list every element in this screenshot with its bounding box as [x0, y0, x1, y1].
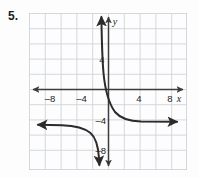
y-tick-label-minus4: –4	[95, 115, 106, 126]
x-axis-name: x	[176, 93, 182, 104]
y-axis-name: y	[112, 16, 118, 27]
x-tick-label-minus8: –8	[45, 93, 56, 104]
figure-container: 5.	[0, 0, 198, 178]
graph-svg: –8 –4 4 8 4 –4 –8 x y	[29, 13, 187, 170]
problem-number-label: 5.	[8, 10, 18, 22]
x-tick-label-8: 8	[167, 93, 172, 104]
x-tick-label-minus4: –4	[76, 93, 87, 104]
x-tick-label-4: 4	[136, 93, 141, 104]
coordinate-plot: –8 –4 4 8 4 –4 –8 x y	[29, 13, 187, 170]
